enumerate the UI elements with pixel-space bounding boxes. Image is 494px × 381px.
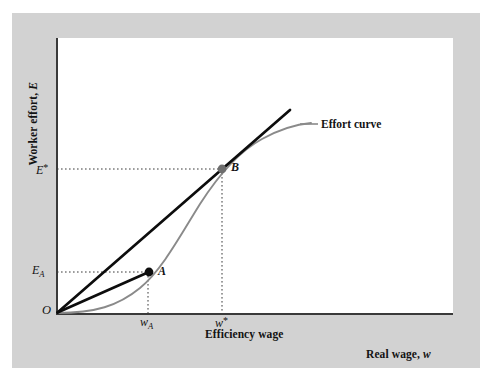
x-tick-label-w-star: w* <box>215 316 228 329</box>
x-tick-label-w-star-base: w <box>215 316 223 330</box>
x-tick-label-w-a-subscript: A <box>148 321 153 331</box>
x-axis-title-real-wage-text: Real wage, <box>366 348 423 360</box>
x-axis-title-efficiency-wage: Efficiency wage <box>205 329 283 341</box>
x-axis-title-real-wage: Real wage, w <box>366 349 431 361</box>
point-b-label: B <box>231 161 239 173</box>
point-a-label: A <box>158 265 166 277</box>
y-axis-title-symbol: E <box>27 82 39 90</box>
y-tick-label-e-a-subscript: A <box>39 269 44 279</box>
point-b-marker <box>218 165 227 174</box>
chart-graphics <box>0 0 494 381</box>
figure-canvas: Worker effort, E Efficiency wage Real wa… <box>0 0 494 381</box>
effort-curve-path <box>57 123 311 313</box>
y-tick-label-e-star-superscript: * <box>43 162 48 173</box>
origin-label: O <box>42 304 51 317</box>
tangent-ray-origin-through-b <box>58 110 291 313</box>
effort-curve-annotation: Effort curve <box>321 119 381 131</box>
y-axis-title-text: Worker effort, <box>27 90 39 166</box>
x-tick-label-w-a: wA <box>140 316 153 331</box>
point-a-marker <box>145 268 154 277</box>
y-tick-label-e-star: E* <box>36 163 48 176</box>
x-axis-title-real-wage-symbol: w <box>423 348 431 360</box>
x-tick-label-w-star-superscript: * <box>223 315 228 326</box>
x-tick-label-w-a-base: w <box>140 315 148 329</box>
y-tick-label-e-a: EA <box>32 264 45 279</box>
